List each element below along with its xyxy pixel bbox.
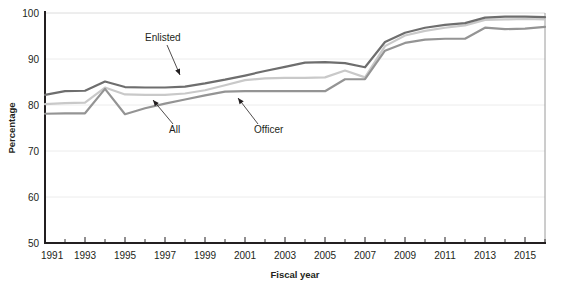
- x-tick-label-1993: 1993: [74, 250, 97, 261]
- annotation-label-enlisted: Enlisted: [145, 32, 181, 43]
- y-tick-90: 90: [28, 54, 40, 65]
- x-tick-label-1999: 1999: [194, 250, 217, 261]
- x-tick-label-2005: 2005: [314, 250, 337, 261]
- x-tick-label-2011: 2011: [434, 250, 456, 261]
- y-axis-title: Percentage: [6, 102, 17, 153]
- x-tick-label-1997: 1997: [154, 250, 177, 261]
- x-tick-label-1995: 1995: [114, 250, 137, 261]
- x-tick-label-2009: 2009: [394, 250, 417, 261]
- y-tick-80: 80: [28, 100, 40, 111]
- x-tick-labels: 1991199319951997199920012003200520072009…: [41, 250, 537, 261]
- x-tick-label-2013: 2013: [474, 250, 497, 261]
- x-tick-label-2007: 2007: [354, 250, 377, 261]
- y-tick-50: 50: [28, 238, 40, 249]
- x-tick-label-2015: 2015: [514, 250, 537, 261]
- annotation-label-all: All: [169, 124, 180, 135]
- x-axis-title: Fiscal year: [270, 269, 319, 280]
- x-tick-label-1991: 1991: [41, 250, 64, 261]
- y-tick-100: 100: [22, 8, 39, 19]
- plot-background: [45, 13, 545, 243]
- x-tick-label-2003: 2003: [274, 250, 297, 261]
- y-tick-70: 70: [28, 146, 40, 157]
- y-tick-labels: 100 90 80 70 60 50: [22, 8, 39, 249]
- line-chart: 100 90 80 70 60 50 199119931995199719992…: [0, 0, 568, 294]
- x-tick-label-2001: 2001: [234, 250, 257, 261]
- chart-figure: 100 90 80 70 60 50 199119931995199719992…: [0, 0, 568, 294]
- y-tick-60: 60: [28, 192, 40, 203]
- annotation-label-officer: Officer: [254, 124, 284, 135]
